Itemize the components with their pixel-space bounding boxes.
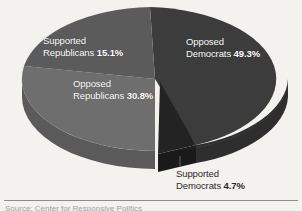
pie-chart-graphic	[0, 0, 302, 211]
slice-label-supported-democrats: Supported Democrats 4.7%	[176, 168, 245, 192]
slice-label-opposed-republicans: Opposed Republicans 30.8%	[73, 78, 153, 101]
slice-label-line2: Democrats	[176, 180, 221, 191]
footnote-text: Source: Center for Responsive Politics	[5, 204, 297, 211]
slice-label-percent: 49.3%	[234, 48, 260, 59]
slice-label-opposed-democrats: Opposed Democrats 49.3%	[186, 36, 260, 59]
slice-label-line1: Supported	[176, 168, 219, 179]
slice-label-line1: Opposed	[73, 78, 111, 89]
slice-label-line1: Supported	[43, 35, 86, 46]
slice-label-line1: Opposed	[186, 36, 224, 47]
slice-label-supported-republicans: Supported Republicans 15.1%	[43, 35, 123, 58]
footer-divider	[4, 200, 298, 201]
slice-label-percent: 15.1%	[97, 47, 123, 58]
slice-label-percent: 30.8%	[127, 90, 153, 101]
slice-label-line2: Republicans	[73, 90, 124, 101]
slice-label-line2: Democrats	[186, 48, 231, 59]
slice-label-percent: 4.7%	[224, 180, 245, 191]
pie-chart-figure: Opposed Democrats 49.3% Supported Republ…	[0, 0, 302, 211]
slice-label-line2: Republicans	[43, 47, 94, 58]
